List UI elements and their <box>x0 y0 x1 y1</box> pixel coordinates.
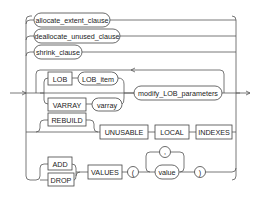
right-rail <box>232 16 236 180</box>
allocate-extent-clause-label: allocate_extent_clause <box>35 16 108 25</box>
shrink-clause-label: shrink_clause <box>36 48 80 57</box>
exit-arrow <box>236 91 250 95</box>
value-label: value <box>158 168 175 177</box>
varray-keyword-label: VARRAY <box>53 101 82 110</box>
left-rail-up <box>26 16 32 93</box>
right-paren-label: ) <box>199 168 201 177</box>
comma-label: , <box>164 147 166 156</box>
unusable-keyword-label: UNUSABLE <box>105 128 144 137</box>
local-keyword-label: LOCAL <box>160 128 184 137</box>
add-keyword-label: ADD <box>52 160 67 169</box>
values-keyword-label: VALUES <box>91 168 119 177</box>
modify-lob-parameters-label: modify_LOB_parameters <box>138 89 218 98</box>
lob-keyword-label: LOB <box>53 75 68 84</box>
rebuild-keyword-label: REBUILD <box>51 116 82 125</box>
left-rail-down <box>26 93 36 180</box>
drop-keyword-label: DROP <box>51 176 72 185</box>
entry-arrow <box>10 91 26 95</box>
varray-label: varray <box>97 101 117 110</box>
syntax-diagram: allocate_extent_clause deallocate_unused… <box>0 0 259 199</box>
lob-item-label: LOB_item <box>82 75 114 84</box>
indexes-keyword-label: INDEXES <box>198 128 230 137</box>
deallocate-unused-clause-label: deallocate_unused_clause <box>34 32 119 41</box>
